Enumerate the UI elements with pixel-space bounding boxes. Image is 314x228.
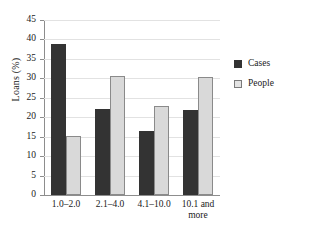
bar-people — [198, 77, 213, 195]
bar-cases — [51, 44, 66, 195]
y-axis-tick-label: 40 — [14, 34, 36, 43]
bar-chart: Loans (%) 051015202530354045 1.0–2.02.1–… — [0, 0, 314, 228]
legend: Cases People — [234, 58, 274, 98]
y-axis-tick-label: 10 — [14, 151, 36, 160]
x-axis-tick-label: 10.1 andmore — [168, 199, 228, 221]
legend-label-people: People — [248, 78, 274, 89]
bar-people — [66, 136, 81, 196]
legend-item-people: People — [234, 78, 274, 89]
legend-swatch-people-icon — [234, 80, 242, 88]
y-axis-tick — [40, 195, 44, 196]
legend-label-cases: Cases — [248, 58, 270, 69]
y-axis-tick-label: 15 — [14, 132, 36, 141]
y-axis-tick-label: 30 — [14, 73, 36, 82]
y-axis-tick-label: 25 — [14, 93, 36, 102]
bar-cases — [183, 110, 198, 195]
bar-people — [154, 106, 169, 195]
legend-swatch-cases-icon — [234, 60, 242, 68]
y-axis-tick-label: 45 — [14, 15, 36, 24]
bar-cases — [95, 109, 110, 195]
bar-people — [110, 76, 125, 195]
y-axis-tick-label: 0 — [14, 190, 36, 199]
y-axis-tick-label: 20 — [14, 112, 36, 121]
legend-item-cases: Cases — [234, 58, 274, 69]
gridline — [44, 195, 220, 196]
bar-cases — [139, 131, 154, 195]
y-axis-tick-label: 35 — [14, 54, 36, 63]
plot-area — [44, 20, 220, 195]
y-axis-tick-label: 5 — [14, 171, 36, 180]
